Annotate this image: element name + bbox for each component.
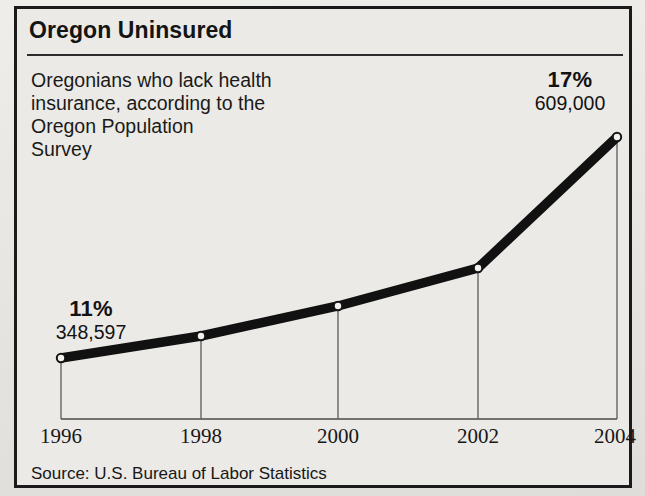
x-tick-1996: 1996 [16,424,106,449]
x-tick-2000: 2000 [293,424,383,449]
scanned-newspaper-graphic: Oregon Uninsured Oregonians who lack hea… [0,0,645,496]
plot-area [17,9,629,485]
marker-2004 [613,133,621,141]
drop-lines-group [61,140,617,419]
data-line [61,137,617,358]
marker-2002 [474,264,482,272]
source-note: Source: U.S. Bureau of Labor Statistics [31,464,327,484]
line-chart-svg [17,9,629,485]
data-point-markers [57,133,621,362]
x-tick-2004: 2004 [570,424,645,449]
x-tick-2002: 2002 [433,424,523,449]
marker-2000 [334,302,342,310]
chart-frame: Oregon Uninsured Oregonians who lack hea… [14,6,632,488]
marker-1998 [197,332,205,340]
marker-1996 [57,354,65,362]
x-tick-1998: 1998 [156,424,246,449]
